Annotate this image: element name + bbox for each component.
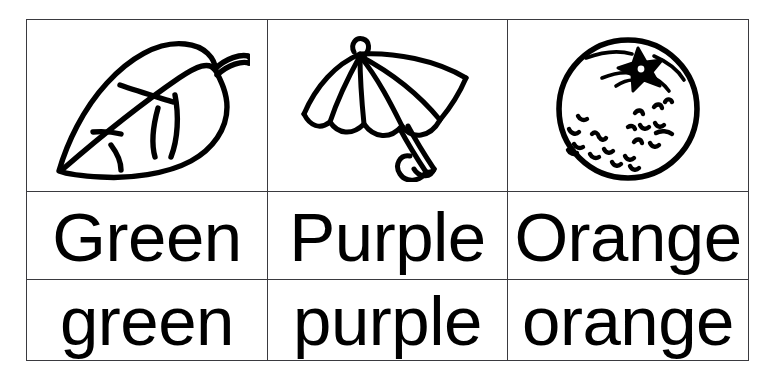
word-cell-purple-lowercase[interactable]: purple [268,280,508,361]
word-cell-orange-lowercase[interactable]: orange [508,280,749,361]
picture-cell-green[interactable] [27,20,268,192]
picture-row [27,20,749,192]
word-green-capitalized: Green [27,203,267,272]
picture-cell-purple[interactable] [268,20,508,192]
lowercase-word-row: green purple orange [27,280,749,361]
word-cell-orange-capitalized[interactable]: Orange [508,192,749,280]
picture-cell-orange[interactable] [508,20,749,192]
flashcard-grid: Green Purple Orange green purple orange [26,19,749,361]
word-cell-green-lowercase[interactable]: green [27,280,268,361]
word-purple-capitalized: Purple [268,203,507,272]
word-cell-purple-capitalized[interactable]: Purple [268,192,508,280]
leaf-icon [27,20,267,191]
word-orange-lowercase: orange [508,287,748,356]
umbrella-icon [268,20,507,191]
word-green-lowercase: green [27,287,267,356]
orange-fruit-icon [508,20,748,191]
word-cell-green-capitalized[interactable]: Green [27,192,268,280]
word-purple-lowercase: purple [268,287,507,356]
uppercase-word-row: Green Purple Orange [27,192,749,280]
word-orange-capitalized: Orange [508,203,748,272]
